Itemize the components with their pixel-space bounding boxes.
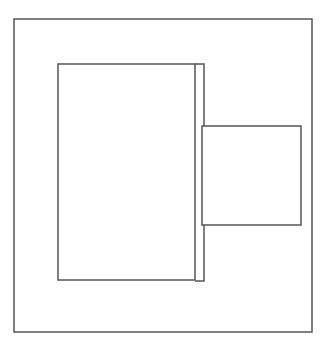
main-rectangle [58, 64, 195, 280]
diagram-canvas [0, 0, 327, 347]
attached-box [202, 126, 301, 225]
